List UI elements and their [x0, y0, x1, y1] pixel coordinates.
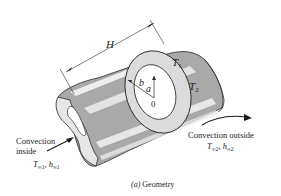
outside-conditions: T∞2, h∞2	[207, 141, 234, 152]
center-label: 0	[151, 99, 156, 109]
inside-conditions: T∞1, h∞1	[33, 159, 60, 170]
cylinder-geometry-diagram: b a 0 H T1 T2 Convection inside T∞1, h∞1…	[0, 0, 281, 196]
inner-radius-label: a	[146, 83, 151, 94]
convection-inside-line1: Convection	[16, 136, 56, 146]
figure-caption: (a) Geometry	[131, 180, 174, 189]
convection-outside-label: Convection outside	[188, 130, 254, 140]
outer-radius-label: b	[139, 77, 144, 88]
convection-inside-line2: inside	[16, 146, 37, 156]
height-label: H	[105, 38, 115, 50]
